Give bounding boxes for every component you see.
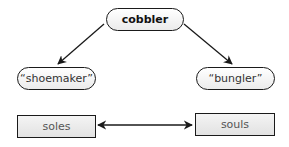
node-shoemaker-label: “shoemaker” xyxy=(20,72,93,85)
arrow-cobbler-to-bungler xyxy=(184,24,232,64)
node-soles: soles xyxy=(17,115,96,138)
node-shoemaker: “shoemaker” xyxy=(17,67,96,90)
node-cobbler: cobbler xyxy=(106,8,184,31)
arrow-cobbler-to-shoemaker xyxy=(58,24,104,64)
node-bungler: “bungler” xyxy=(196,67,275,90)
node-souls-label: souls xyxy=(221,118,249,131)
node-soles-label: soles xyxy=(42,120,70,133)
node-souls: souls xyxy=(195,113,275,136)
node-cobbler-label: cobbler xyxy=(122,13,168,26)
node-bungler-label: “bungler” xyxy=(208,72,262,85)
